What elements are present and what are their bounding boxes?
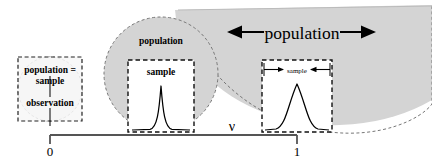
middle-population-label: population xyxy=(139,36,184,46)
left-population-equals-sample-line2: sample xyxy=(36,76,65,86)
statistics-sampling-diagram: population = sample observation populati… xyxy=(0,0,432,158)
left-observation-label: observation xyxy=(26,98,74,108)
axis-variable-label: ν xyxy=(229,119,235,134)
right-population-label: population xyxy=(265,23,340,43)
nu-axis xyxy=(50,135,297,144)
axis-tick-label-1: 1 xyxy=(294,144,301,158)
right-sample-label: sample xyxy=(287,67,307,75)
middle-sample-label: sample xyxy=(147,67,176,77)
left-population-equals-sample-line1: population = xyxy=(24,65,76,75)
axis-tick-label-0: 0 xyxy=(47,144,54,158)
